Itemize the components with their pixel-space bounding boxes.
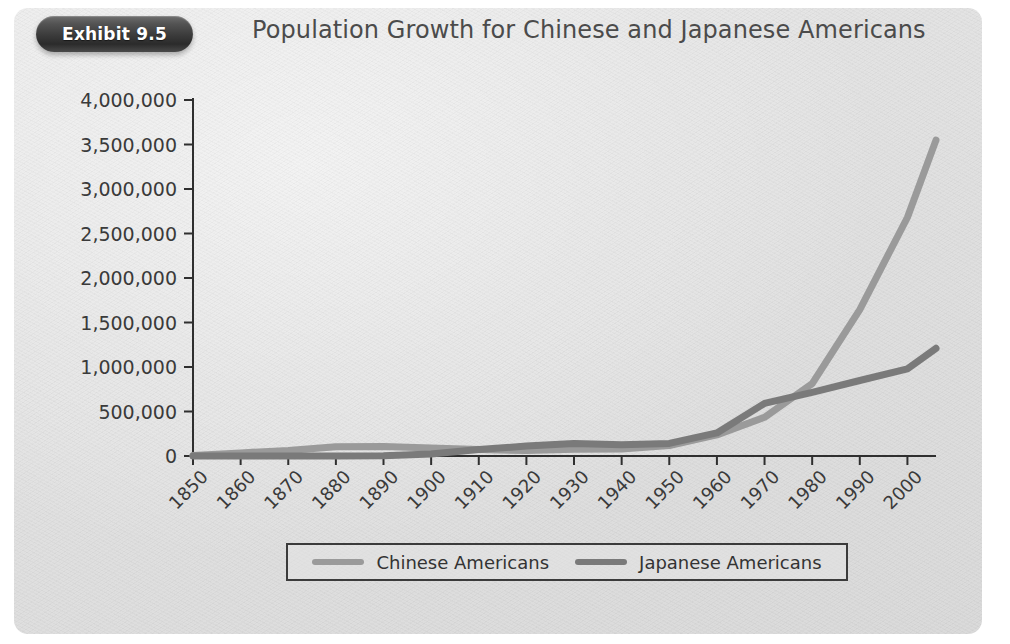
- x-tick-label: 1880: [307, 466, 354, 513]
- exhibit-figure: Exhibit 9.5 Population Growth for Chines…: [0, 0, 1010, 644]
- y-tick-label: 2,000,000: [80, 267, 177, 289]
- legend-swatch-chinese: [312, 559, 364, 565]
- y-tick-label: 4,000,000: [80, 89, 177, 111]
- y-tick-label: 500,000: [98, 401, 177, 423]
- y-tick-label: 1,500,000: [80, 312, 177, 334]
- x-tick-label: 1960: [688, 466, 735, 513]
- x-tick-label: 1890: [355, 466, 402, 513]
- x-tick-label: 1950: [641, 466, 688, 513]
- y-tick-label: 0: [165, 445, 177, 467]
- legend-item-chinese[interactable]: Chinese Americans: [312, 552, 549, 573]
- y-tick-label: 3,500,000: [80, 134, 177, 156]
- data-series-group: [193, 140, 936, 456]
- legend-label-japanese: Japanese Americans: [639, 552, 822, 573]
- x-tick-label: 1930: [546, 466, 593, 513]
- x-tick-label: 1900: [403, 466, 450, 513]
- y-tick-label: 3,000,000: [80, 178, 177, 200]
- x-tick-label: 1990: [831, 466, 878, 513]
- x-tick-label: 1850: [165, 466, 212, 513]
- series-line-chinese-americans: [193, 140, 936, 456]
- y-tick-label: 1,000,000: [80, 356, 177, 378]
- legend-label-chinese: Chinese Americans: [376, 552, 549, 573]
- x-tick-label: 1940: [593, 466, 640, 513]
- legend-item-japanese[interactable]: Japanese Americans: [575, 552, 822, 573]
- x-tick-label: 1980: [784, 466, 831, 513]
- x-tick-label: 1920: [498, 466, 545, 513]
- legend-swatch-japanese: [575, 559, 627, 565]
- y-axis-ticks: 0500,0001,000,0001,500,0002,000,0002,500…: [80, 89, 193, 467]
- x-axis-ticks: 1850186018701880189019001910192019301940…: [165, 456, 927, 513]
- x-tick-label: 2000: [879, 466, 926, 513]
- x-tick-label: 1910: [450, 466, 497, 513]
- x-tick-label: 1860: [212, 466, 259, 513]
- y-tick-label: 2,500,000: [80, 223, 177, 245]
- x-tick-label: 1870: [260, 466, 307, 513]
- x-tick-label: 1970: [736, 466, 783, 513]
- chart-legend: Chinese Americans Japanese Americans: [286, 543, 848, 581]
